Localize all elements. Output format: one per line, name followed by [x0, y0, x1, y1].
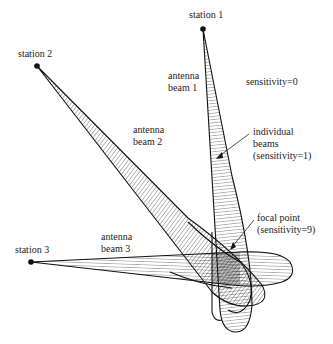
station-3-label: station 3: [15, 244, 49, 255]
beam-2-label-line1: antenna: [133, 124, 165, 135]
sensitivity-zero-label: sensitivity=0: [246, 76, 298, 87]
beam-3-label-line1: antenna: [101, 231, 133, 242]
station-1-dot: [200, 26, 206, 32]
station-2-label: station 2: [18, 48, 52, 59]
station-1-label: station 1: [189, 9, 223, 20]
individual-beams-label-line1: individual: [253, 126, 294, 137]
station-3-dot: [28, 259, 34, 265]
beam-1-label-line1: antenna: [168, 70, 200, 81]
individual-beams-label-line3: (sensitivity=1): [253, 150, 311, 162]
individual-beams-label-line2: beams: [253, 138, 279, 149]
focal-region: [212, 252, 240, 284]
focal-point-label-line1: focal point: [257, 212, 300, 223]
sensitivity-diagram: station 1 station 2 station 3 antenna be…: [0, 0, 333, 344]
station-2-dot: [34, 63, 40, 69]
beam-3-label-line2: beam 3: [101, 243, 130, 254]
beam-2-label-line2: beam 2: [133, 136, 162, 147]
antenna-beam-3: [31, 252, 293, 286]
beam-1-label-line2: beam 1: [168, 82, 197, 93]
focal-point-label-line2: (sensitivity=9): [257, 224, 315, 236]
